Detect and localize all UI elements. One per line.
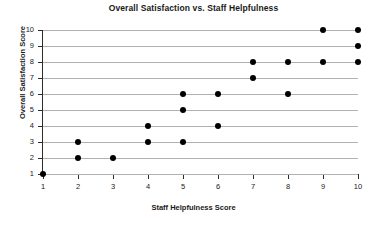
x-tick-mark (218, 175, 219, 179)
gridline-horizontal (43, 126, 358, 127)
y-tick-label: 9 (8, 42, 34, 50)
chart-title: Overall Satisfaction vs. Staff Helpfulne… (0, 3, 387, 13)
gridline-horizontal (43, 158, 358, 159)
x-tick-mark (323, 175, 324, 179)
data-point (145, 139, 151, 145)
x-tick-label: 3 (103, 183, 123, 191)
data-point (215, 123, 221, 129)
data-point (355, 27, 361, 33)
y-tick-label: 4 (8, 122, 34, 130)
x-tick-mark (113, 175, 114, 179)
x-tick-label: 9 (313, 183, 333, 191)
data-point (320, 59, 326, 65)
y-tick-mark (38, 142, 42, 143)
y-tick-label: 7 (8, 74, 34, 82)
y-tick-mark (38, 46, 42, 47)
data-point (110, 155, 116, 161)
y-tick-mark (38, 126, 42, 127)
x-tick-label: 7 (243, 183, 263, 191)
x-tick-mark (183, 175, 184, 179)
x-tick-mark (253, 175, 254, 179)
gridline-horizontal (43, 30, 358, 31)
plot-area (43, 30, 358, 174)
x-tick-label: 8 (278, 183, 298, 191)
x-tick-mark (148, 175, 149, 179)
y-tick-mark (38, 158, 42, 159)
y-tick-label: 8 (8, 58, 34, 66)
y-tick-mark (38, 30, 42, 31)
x-tick-label: 2 (68, 183, 88, 191)
data-point (75, 139, 81, 145)
data-point (250, 59, 256, 65)
x-tick-label: 1 (33, 183, 53, 191)
gridline-horizontal (43, 174, 358, 175)
data-point (250, 75, 256, 81)
data-point (75, 155, 81, 161)
x-tick-label: 4 (138, 183, 158, 191)
y-tick-label: 10 (8, 26, 34, 34)
scatter-chart-figure: Overall Satisfaction vs. Staff Helpfulne… (0, 0, 387, 227)
y-tick-label: 5 (8, 106, 34, 114)
x-tick-mark (78, 175, 79, 179)
gridline-horizontal (43, 142, 358, 143)
gridline-horizontal (43, 110, 358, 111)
x-tick-label: 5 (173, 183, 193, 191)
gridline-horizontal (43, 78, 358, 79)
x-axis-title: Staff Helpfulness Score (0, 203, 387, 212)
y-tick-label: 1 (8, 170, 34, 178)
data-point (320, 27, 326, 33)
gridline-horizontal (43, 94, 358, 95)
y-tick-label: 6 (8, 90, 34, 98)
gridline-horizontal (43, 46, 358, 47)
x-tick-mark (358, 175, 359, 179)
data-point (285, 91, 291, 97)
y-tick-label: 3 (8, 138, 34, 146)
data-point (180, 91, 186, 97)
x-tick-label: 10 (348, 183, 368, 191)
x-tick-mark (288, 175, 289, 179)
gridline-horizontal (43, 62, 358, 63)
y-tick-mark (38, 62, 42, 63)
data-point (145, 123, 151, 129)
data-point (40, 171, 46, 177)
y-tick-mark (38, 78, 42, 79)
x-tick-label: 6 (208, 183, 228, 191)
y-tick-label: 2 (8, 154, 34, 162)
y-tick-mark (38, 94, 42, 95)
data-point (355, 59, 361, 65)
data-point (180, 139, 186, 145)
data-point (355, 43, 361, 49)
y-tick-mark (38, 110, 42, 111)
data-point (180, 107, 186, 113)
data-point (215, 91, 221, 97)
data-point (285, 59, 291, 65)
